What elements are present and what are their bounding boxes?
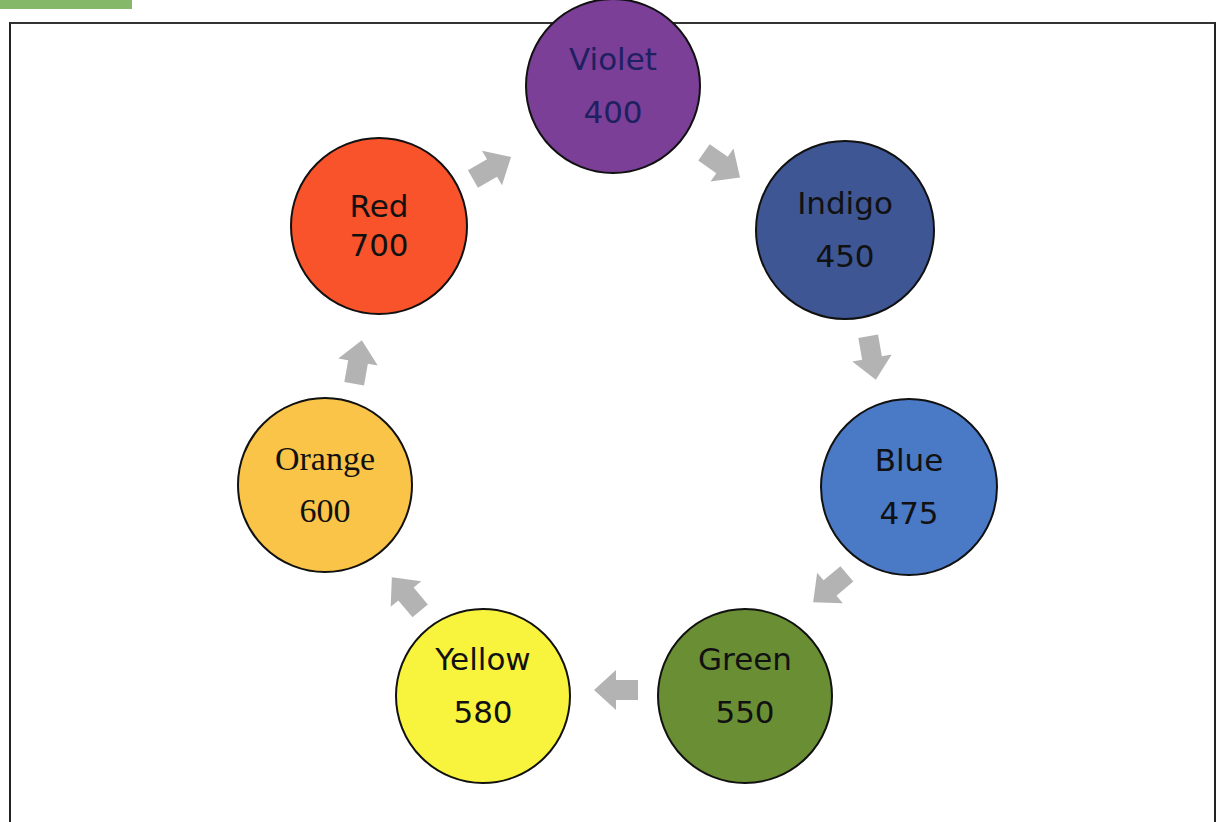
node-name: Yellow xyxy=(435,644,530,675)
node-green: Green 550 xyxy=(657,608,833,784)
node-name: Green xyxy=(698,644,792,675)
arrow-icon-green-to-yellow xyxy=(594,670,638,710)
node-wavelength: 450 xyxy=(815,241,874,272)
node-wavelength: 700 xyxy=(349,230,408,261)
node-wavelength: 580 xyxy=(453,697,512,728)
node-indigo: Indigo 450 xyxy=(755,140,935,320)
node-orange: Orange 600 xyxy=(237,397,413,573)
node-blue: Blue 475 xyxy=(820,398,998,576)
node-name: Violet xyxy=(569,44,657,75)
node-violet: Violet 400 xyxy=(525,0,701,174)
node-wavelength: 550 xyxy=(715,697,774,728)
node-name: Orange xyxy=(275,442,375,476)
node-name: Red xyxy=(350,191,409,222)
arrow-icon-indigo-to-blue xyxy=(848,333,895,383)
node-name: Blue xyxy=(875,445,944,476)
node-wavelength: 475 xyxy=(879,498,938,529)
node-wavelength: 600 xyxy=(300,494,351,528)
node-yellow: Yellow 580 xyxy=(395,608,571,784)
node-name: Indigo xyxy=(797,188,893,219)
node-red: Red 700 xyxy=(290,137,468,315)
figure-label-bar xyxy=(0,0,132,9)
node-wavelength: 400 xyxy=(583,97,642,128)
arrow-icon-orange-to-red xyxy=(334,337,381,387)
